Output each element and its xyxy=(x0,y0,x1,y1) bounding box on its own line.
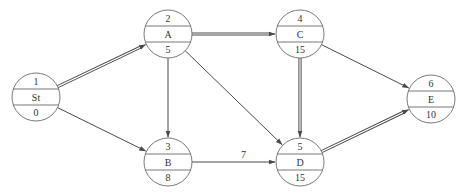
node-duration: 8 xyxy=(166,172,171,183)
network-diagram: 7 1St02A53B84C155D156E10 xyxy=(0,0,462,196)
node-b[interactable]: 3B8 xyxy=(144,138,192,186)
edge-st-a xyxy=(58,45,146,87)
node-c[interactable]: 4C15 xyxy=(276,10,324,58)
node-duration: 15 xyxy=(295,44,305,55)
node-a[interactable]: 2A5 xyxy=(144,10,192,58)
node-number: 5 xyxy=(298,141,303,152)
node-st[interactable]: 1St0 xyxy=(12,73,60,121)
edge-label: 7 xyxy=(241,149,246,160)
edge-d-e xyxy=(322,110,409,152)
node-label: C xyxy=(297,29,304,40)
edge-c-e xyxy=(321,45,408,88)
node-label: E xyxy=(428,94,434,105)
node-number: 1 xyxy=(34,76,39,87)
edge-st-b xyxy=(58,108,146,151)
node-duration: 5 xyxy=(166,44,171,55)
node-number: 4 xyxy=(298,13,303,24)
node-e[interactable]: 6E10 xyxy=(407,75,455,123)
node-label: A xyxy=(164,29,172,40)
node-label: St xyxy=(32,92,41,103)
edge-a-d xyxy=(185,51,282,145)
node-duration: 15 xyxy=(295,172,305,183)
node-d[interactable]: 5D15 xyxy=(276,138,324,186)
node-duration: 10 xyxy=(426,109,436,120)
node-duration: 0 xyxy=(34,107,39,118)
edges-layer: 7 xyxy=(58,34,409,162)
edge-b-d: 7 xyxy=(192,149,275,162)
node-number: 3 xyxy=(166,141,171,152)
node-label: D xyxy=(296,157,303,168)
node-number: 6 xyxy=(429,78,434,89)
node-label: B xyxy=(165,157,172,168)
node-number: 2 xyxy=(166,13,171,24)
